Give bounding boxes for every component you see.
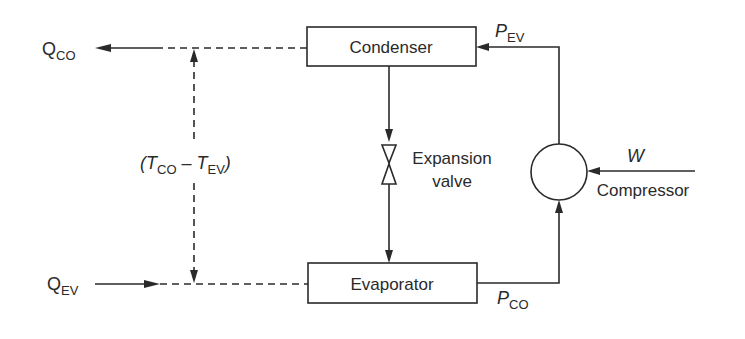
condenser-block: Condenser: [307, 27, 476, 66]
valve-inlet-arrowhead-icon: [385, 129, 393, 142]
q-ev-arrowhead-icon: [144, 280, 160, 288]
refrigeration-cycle-diagram: Condenser Evaporator QCO QEV (TCO – TEV): [0, 0, 745, 339]
q-co-label: QCO: [42, 39, 76, 63]
condenser-inlet-arrowhead-icon: [476, 43, 489, 51]
temp-diff-up-arrowhead-icon: [190, 49, 198, 62]
heat-rejected-flow: QCO: [42, 39, 307, 63]
temp-diff-label: (TCO – TEV): [140, 153, 231, 177]
compressor-inlet-arrowhead-icon: [555, 200, 563, 213]
work-arrowhead-icon: [587, 167, 600, 175]
temperature-difference-indicator: (TCO – TEV): [140, 49, 231, 283]
liquid-line: Expansion valve: [382, 66, 492, 263]
p-ev-label: PEV: [495, 21, 525, 45]
q-co-arrowhead-icon: [95, 44, 111, 52]
evaporator-to-compressor-line: [477, 212, 559, 283]
suction-line: PCO: [477, 200, 563, 312]
compressor-block: Compressor: [531, 144, 690, 200]
expansion-valve-label-line1: Expansion: [412, 149, 491, 168]
compressor-icon: [531, 144, 587, 200]
heat-absorbed-flow: QEV: [47, 274, 308, 298]
condenser-label: Condenser: [349, 38, 433, 57]
compressor-label: Compressor: [597, 181, 690, 200]
work-input: W: [587, 146, 695, 175]
q-ev-label: QEV: [47, 274, 79, 298]
w-label: W: [627, 146, 646, 166]
expansion-valve-label-line2: valve: [432, 172, 472, 191]
p-co-label: PCO: [497, 288, 529, 312]
evaporator-block: Evaporator: [308, 263, 477, 303]
evaporator-label: Evaporator: [350, 275, 433, 294]
compressor-to-condenser-line: [488, 47, 559, 144]
evaporator-inlet-arrowhead-icon: [385, 250, 393, 263]
discharge-line: PEV: [476, 21, 559, 144]
temp-diff-down-arrowhead-icon: [190, 270, 198, 283]
expansion-valve-icon: [382, 145, 396, 184]
